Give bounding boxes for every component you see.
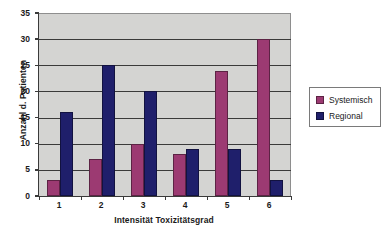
- x-tickmark: [291, 196, 292, 200]
- x-tickmark: [249, 196, 250, 200]
- x-tick-label: 3: [123, 201, 163, 210]
- y-axis-title: Anzahl d. Patienten: [18, 20, 28, 180]
- y-tick-label: 5: [8, 165, 30, 174]
- bars-layer: [39, 13, 291, 196]
- legend-label-regional: Regional: [329, 112, 363, 121]
- y-tick-label: 30: [8, 35, 30, 44]
- x-tick-label: 1: [39, 201, 79, 210]
- bar-systemisch-6: [257, 39, 270, 196]
- y-tick-label: 10: [8, 139, 30, 148]
- bar-regional-4: [186, 149, 199, 196]
- y-tick-label: 15: [8, 113, 30, 122]
- bar-chart: Anzahl d. Patienten 05101520253035 12345…: [0, 0, 385, 232]
- plot-area: [38, 13, 291, 197]
- x-tick-label: 2: [81, 201, 121, 210]
- bar-regional-1: [60, 112, 73, 196]
- y-tick-label: 35: [8, 9, 30, 18]
- x-tick-label: 4: [165, 201, 205, 210]
- legend-item-systemisch: Systemisch: [316, 96, 372, 105]
- bar-systemisch-4: [173, 154, 186, 196]
- x-tickmark: [165, 196, 166, 200]
- y-tick-label: 0: [8, 192, 30, 201]
- x-tick-label: 6: [249, 201, 289, 210]
- x-tickmark: [207, 196, 208, 200]
- legend-label-systemisch: Systemisch: [329, 96, 372, 105]
- x-tick-label: 5: [207, 201, 247, 210]
- bar-regional-5: [228, 149, 241, 196]
- bar-regional-6: [270, 180, 283, 196]
- bar-regional-3: [144, 91, 157, 196]
- y-tick-label: 20: [8, 87, 30, 96]
- legend: Systemisch Regional: [309, 87, 381, 127]
- bar-systemisch-5: [215, 71, 228, 196]
- bar-regional-2: [102, 65, 115, 196]
- legend-item-regional: Regional: [316, 112, 363, 121]
- bar-systemisch-2: [89, 159, 102, 196]
- legend-swatch-icon-regional: [316, 112, 324, 120]
- bar-systemisch-3: [131, 144, 144, 196]
- bar-systemisch-1: [47, 180, 60, 196]
- x-tickmark: [123, 196, 124, 200]
- x-tickmark: [81, 196, 82, 200]
- x-axis-title: Intensität Toxizitätsgrad: [38, 215, 290, 225]
- x-tickmark: [39, 196, 40, 200]
- legend-swatch-icon-systemisch: [316, 96, 324, 104]
- y-tick-label: 25: [8, 61, 30, 70]
